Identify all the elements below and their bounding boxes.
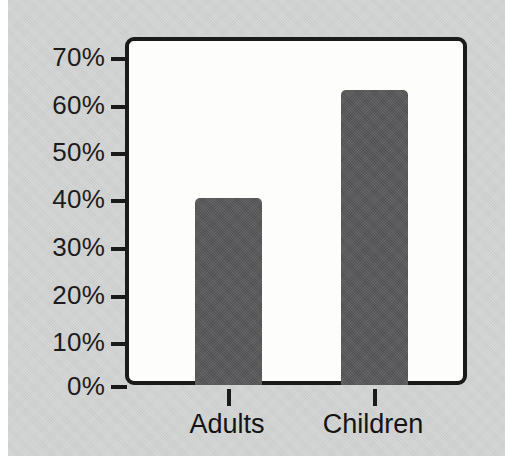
y-tick-label-10: 10% (52, 329, 105, 355)
bar-adults[interactable] (195, 198, 262, 385)
x-axis-label-adults: Adults (152, 410, 302, 440)
y-tick-label-30: 30% (52, 234, 105, 260)
chart-figure: 70% 60% 50% 40% 30% 20% 10% 0% Adults Ch… (0, 0, 513, 470)
x-axis-label-children: Children (298, 410, 448, 440)
x-tick-mark-children (373, 389, 377, 406)
y-tick-label-50: 50% (52, 139, 105, 165)
y-tick-label-60: 60% (52, 92, 105, 118)
bar-children[interactable] (341, 90, 408, 385)
y-tick-label-0: 0% (67, 373, 105, 399)
y-tick-mark-0 (111, 385, 127, 389)
plot-area (125, 37, 467, 385)
y-tick-label-40: 40% (52, 186, 105, 212)
y-tick-label-70: 70% (52, 44, 105, 70)
y-tick-label-20: 20% (52, 282, 105, 308)
y-axis-tick-labels: 70% 60% 50% 40% 30% 20% 10% 0% (20, 0, 105, 470)
x-tick-mark-adults (227, 389, 231, 406)
